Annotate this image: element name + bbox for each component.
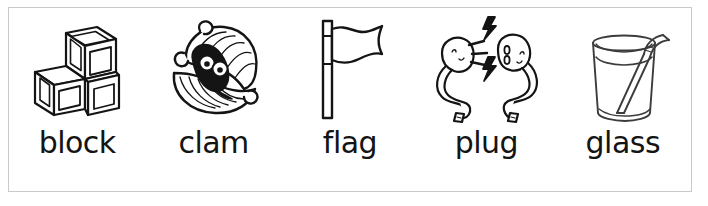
picture-word-row: block (9, 8, 691, 191)
flag-icon (282, 8, 418, 126)
picture-word-cell-flag[interactable]: flag (282, 8, 418, 191)
word-label-glass: glass (586, 126, 661, 160)
word-label-clam: clam (178, 126, 248, 160)
blocks-icon (9, 8, 145, 126)
word-label-flag: flag (323, 126, 377, 160)
word-label-plug: plug (455, 126, 518, 160)
word-label-block: block (39, 126, 116, 160)
worksheet-card: block (0, 0, 708, 206)
picture-word-cell-plug[interactable]: plug (418, 8, 554, 191)
glass-icon (555, 8, 691, 126)
clam-icon (145, 8, 281, 126)
plug-icon (418, 8, 554, 126)
picture-word-cell-glass[interactable]: glass (555, 8, 691, 191)
picture-word-cell-clam[interactable]: clam (145, 8, 281, 191)
picture-word-cell-block[interactable]: block (9, 8, 145, 191)
